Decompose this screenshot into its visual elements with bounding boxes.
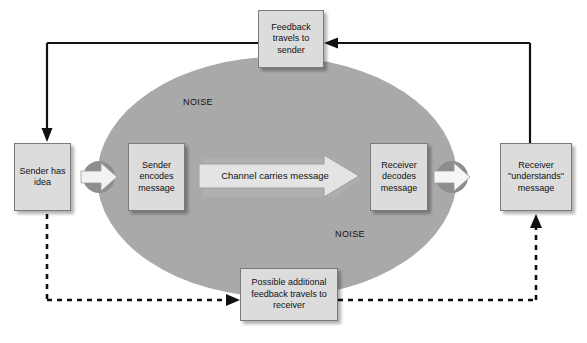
box-sender-has-idea: Sender has idea	[14, 143, 71, 211]
box-feedback-travels-to-sender: Feedback travels to sender	[258, 10, 324, 68]
channel-carries-message-label: Channel carries message	[210, 170, 340, 181]
noise-label-top: NOISE	[183, 97, 213, 107]
communication-model-diagram: NOISE NOISE Sender has idea Sender encod…	[0, 0, 587, 343]
box-possible-additional-feedback-travels-to-receiver: Possible additional feedback travels to …	[240, 268, 338, 321]
box-sender-encodes-message: Sender encodes message	[128, 143, 185, 211]
box-receiver-understands-message: Receiver "understands" message	[500, 143, 572, 211]
noise-label-bottom: NOISE	[335, 229, 365, 239]
chevron-arrow-icon-right	[432, 157, 472, 197]
chevron-arrow-icon-left	[79, 157, 119, 197]
box-receiver-decodes-message: Receiver decodes message	[370, 143, 428, 211]
